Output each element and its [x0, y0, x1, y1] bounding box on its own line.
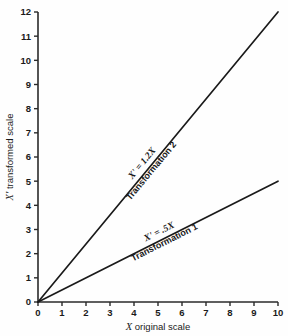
- x-tick-label: 10: [273, 307, 284, 318]
- y-tick-label: 4: [26, 200, 32, 211]
- x-tick-label: 3: [107, 307, 112, 318]
- chart-figure: 0123456789101112 012345678910 X' = 1.2XT…: [0, 0, 288, 336]
- x-tick-label: 1: [59, 307, 65, 318]
- y-tick-label: 0: [26, 296, 31, 307]
- y-tick-label: 12: [20, 6, 31, 17]
- y-axis-title-rest: transformed scale: [4, 114, 15, 192]
- y-tick-label: 7: [26, 127, 31, 138]
- y-tick-label: 6: [26, 151, 31, 162]
- y-tick-label: 2: [26, 248, 31, 259]
- x-tick-label: 2: [83, 307, 88, 318]
- y-tick-label: 8: [26, 103, 31, 114]
- y-tick-label: 5: [26, 176, 32, 187]
- y-tick-label: 3: [26, 224, 31, 235]
- x-tick-label: 0: [35, 307, 40, 318]
- y-tick-label: 11: [21, 31, 32, 42]
- x-axis-title-rest: original scale: [132, 321, 190, 332]
- line-chart: 0123456789101112 012345678910 X' = 1.2XT…: [0, 0, 288, 336]
- x-tick-label: 9: [251, 307, 256, 318]
- x-tick-label: 6: [179, 307, 184, 318]
- x-tick-label: 7: [203, 307, 208, 318]
- x-axis-title: X original scale: [125, 321, 191, 332]
- x-tick-label: 5: [155, 307, 161, 318]
- y-tick-label: 10: [20, 55, 31, 66]
- x-tick-label: 4: [131, 307, 137, 318]
- y-tick-label: 9: [26, 79, 31, 90]
- x-tick-label: 8: [227, 307, 232, 318]
- y-tick-label: 1: [26, 272, 32, 283]
- y-axis-title: X' transformed scale: [4, 114, 15, 202]
